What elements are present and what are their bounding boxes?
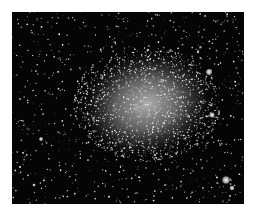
galaxy-photo bbox=[12, 12, 244, 204]
star-field bbox=[12, 12, 244, 204]
